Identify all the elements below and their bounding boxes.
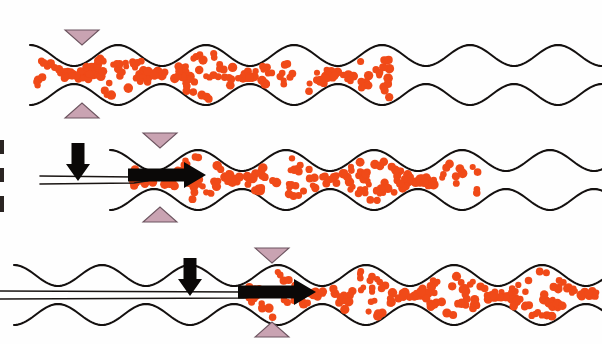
pressure-arrow-down (66, 143, 90, 181)
blood-cell (383, 73, 393, 83)
blood-cell (290, 192, 298, 200)
blood-cell (275, 269, 281, 275)
blood-cell (289, 155, 295, 161)
blood-cell (396, 180, 404, 188)
blood-cell (470, 279, 476, 285)
blood-cell (341, 169, 348, 176)
blood-cell (322, 180, 330, 188)
blood-cell (305, 87, 313, 95)
blood-cell (258, 304, 266, 312)
blood-cell (261, 173, 269, 181)
blood-cell (51, 64, 58, 71)
blood-cell (453, 180, 460, 187)
blood-cell (189, 88, 197, 96)
blood-cell (295, 168, 303, 176)
catheter-wall-top (0, 291, 258, 294)
blood-cell (509, 302, 518, 311)
marker-down (255, 248, 289, 263)
blood-cell (226, 74, 233, 81)
blood-cell (336, 293, 343, 300)
blood-cell (300, 188, 307, 195)
blood-cell (106, 80, 113, 87)
blood-cell (321, 173, 329, 181)
marker-down (143, 133, 177, 148)
blood-cell (191, 188, 199, 196)
blood-cell (540, 290, 548, 298)
blood-cell (332, 172, 339, 179)
blood-cell (38, 73, 46, 81)
blood-cell (310, 182, 316, 188)
blood-cell (188, 76, 195, 83)
blood-cell (61, 74, 69, 82)
blood-cell (379, 63, 387, 71)
blood-cell (525, 277, 533, 285)
edge-marks-layer (0, 140, 4, 212)
blood-cell (197, 51, 204, 58)
blood-cell (374, 276, 380, 282)
blood-cell (348, 164, 354, 170)
pressure-arrow-down (178, 258, 202, 296)
blood-cell (68, 72, 76, 80)
blood-cell (307, 80, 313, 86)
blood-cell (381, 87, 389, 95)
panel-1 (30, 30, 602, 118)
blood-cell (490, 293, 497, 300)
blood-cell (358, 275, 364, 281)
blood-cell (455, 164, 464, 173)
blood-cell (439, 175, 445, 181)
blood-cell (437, 298, 446, 307)
blood-cell (528, 313, 534, 319)
blood-cell (114, 60, 120, 66)
edge-mark-2 (0, 168, 4, 182)
blood-cell (362, 186, 368, 192)
blood-cell (372, 298, 378, 304)
blood-cell (245, 181, 252, 188)
blood-cell (462, 291, 469, 298)
blood-cell (373, 197, 380, 204)
blood-cell (192, 153, 199, 160)
blood-cell (82, 63, 91, 72)
blood-cell (340, 305, 349, 314)
blood-cell (321, 74, 330, 83)
blood-cell (458, 279, 465, 286)
diagram-canvas (0, 0, 602, 344)
blood-cell (305, 166, 312, 173)
blood-cell (314, 70, 320, 76)
panel-3 (0, 248, 602, 337)
blood-cell (509, 285, 516, 292)
marker-up (65, 103, 99, 118)
blood-cell (372, 66, 379, 73)
blood-cell (360, 285, 366, 291)
blood-cell (417, 287, 426, 296)
blood-cell (364, 71, 373, 80)
blood-cell (318, 287, 327, 296)
blood-cell (33, 79, 39, 85)
blood-cell (376, 162, 385, 171)
blood-cell (306, 175, 314, 183)
panel-3-wall-top (14, 265, 602, 286)
panel-1-blood-cells (33, 50, 394, 103)
edge-mark-1 (0, 140, 4, 154)
blood-cell (203, 93, 211, 101)
blood-cell (235, 75, 241, 81)
blood-cell (258, 163, 267, 172)
blood-cell (86, 70, 94, 78)
blood-cell (107, 90, 117, 100)
blood-cell (138, 58, 145, 65)
blood-cell (400, 288, 409, 297)
blood-cell (420, 178, 429, 187)
blood-cell (207, 190, 213, 196)
blood-cell (350, 184, 356, 190)
blood-cell (558, 301, 567, 310)
blood-cell (576, 290, 585, 299)
catheter-wall-bottom (0, 296, 258, 299)
blood-cell (281, 77, 287, 83)
blood-cell (183, 82, 191, 90)
blood-cell (593, 289, 599, 295)
blood-cell (521, 303, 528, 310)
blood-cell (215, 73, 222, 80)
blood-cell (246, 74, 254, 82)
blood-cell (470, 295, 479, 304)
blood-cell (563, 285, 571, 293)
blood-cell (427, 282, 435, 290)
